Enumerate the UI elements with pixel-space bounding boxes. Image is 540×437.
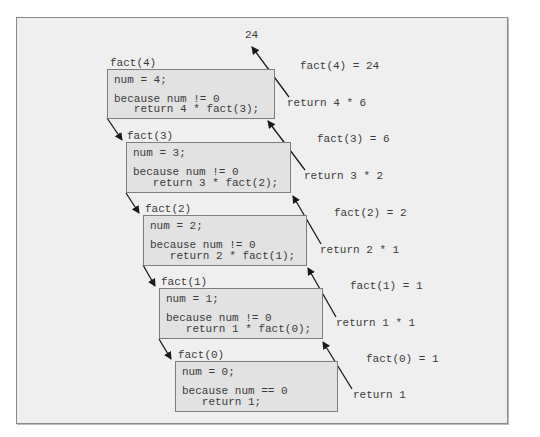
return-label: return 4 * 6 [287,97,366,110]
stack-frame-fact3: num = 3; because num != 0 return 3 * fac… [126,142,291,193]
call-arrow [143,265,155,286]
call-arrow [107,118,122,140]
return-label: return 3 * 2 [304,170,383,183]
frame-line: return 4 * fact(3); [114,103,259,116]
frame-line: num = 4; [114,74,167,87]
frame-line: return 2 * fact(1); [150,250,295,263]
frame-line: num = 2; [150,220,203,233]
return-label: return 1 * 1 [336,317,415,330]
final-result: 24 [245,29,258,42]
stack-frame-fact4: num = 4; because num != 0 return 4 * fac… [107,69,275,119]
call-arrow [159,339,171,359]
stack-frame-fact0: num = 0; because num == 0 return 1; [175,361,338,412]
value-label: fact(1) = 1 [350,280,423,293]
stack-frame-fact1: num = 1; because num != 0 return 1 * fac… [159,288,323,339]
frame-line: num = 1; [166,293,219,306]
frame-line: num = 3; [133,147,186,160]
frame-line: return 3 * fact(2); [133,177,278,190]
call-arrow [126,193,139,213]
return-label: return 2 * 1 [320,244,399,257]
frame-line: return 1 * fact(0); [166,323,311,336]
value-label: fact(0) = 1 [366,353,439,366]
value-label: fact(4) = 24 [300,60,379,73]
stack-frame-fact2: num = 2; because num != 0 return 2 * fac… [143,215,307,266]
value-label: fact(2) = 2 [334,207,407,220]
value-label: fact(3) = 6 [317,133,390,146]
frame-line: num = 0; [182,366,235,379]
return-label: return 1 [353,389,406,402]
frame-line: return 1; [182,396,261,409]
